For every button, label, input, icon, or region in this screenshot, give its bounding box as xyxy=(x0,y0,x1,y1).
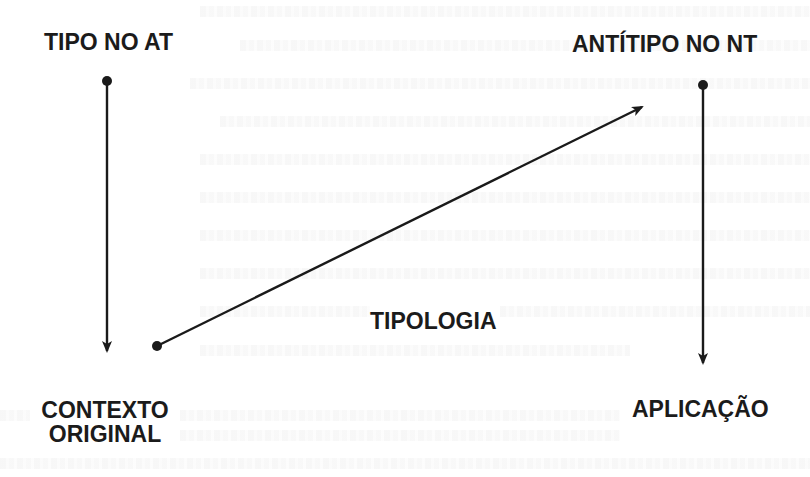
edge-label-tipologia: TIPOLOGIA xyxy=(370,309,497,333)
node-contexto-line2: ORIGINAL xyxy=(38,422,172,446)
node-tipo-no-at: TIPO NO AT xyxy=(44,30,173,54)
node-antitipo-no-nt: ANTÍTIPO NO NT xyxy=(572,32,757,56)
node-contexto-original: CONTEXTO ORIGINAL xyxy=(38,398,172,446)
arrow-antitipo-to-aplicacao xyxy=(698,80,708,363)
node-contexto-line1: CONTEXTO xyxy=(38,398,172,422)
arrow-tipo-to-contexto xyxy=(102,76,112,351)
node-aplicacao: APLICAÇÃO xyxy=(632,397,769,421)
